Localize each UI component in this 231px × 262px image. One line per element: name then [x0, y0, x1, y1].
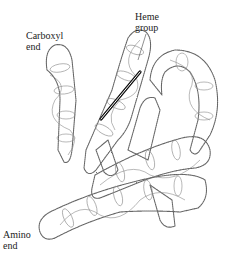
carboxyl-end-label: Carboxyl end [26, 30, 63, 52]
amino-end-label: Amino end [3, 229, 31, 251]
heme-group-label: Heme group [135, 11, 159, 33]
